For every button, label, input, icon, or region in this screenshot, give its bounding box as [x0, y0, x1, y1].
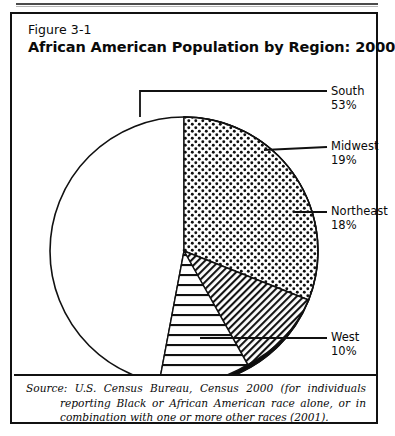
source-note-label: Source:	[26, 382, 67, 394]
callout-south: South 53%	[331, 85, 364, 112]
callout-west: West 10%	[331, 331, 359, 358]
page-top-rule	[16, 3, 378, 5]
page-top-rule-secondary	[16, 6, 378, 7]
callout-west-label: West	[331, 331, 359, 345]
source-divider	[14, 374, 378, 376]
source-note-body: Source: U.S. Census Bureau, Census 2000 …	[26, 381, 366, 425]
pie-chart	[12, 14, 376, 374]
pie-chart-svg	[12, 14, 376, 374]
callout-midwest-label: Midwest	[331, 140, 378, 154]
callout-west-value: 10%	[331, 345, 359, 359]
source-note-text: U.S. Census Bureau, Census 2000 (for ind…	[60, 382, 366, 423]
callout-midwest: Midwest 19%	[331, 140, 378, 167]
figure-box: Figure 3-1 African American Population b…	[10, 12, 378, 424]
callout-northeast-value: 18%	[331, 219, 388, 233]
callout-south-label: South	[331, 85, 364, 99]
callout-northeast-label: Northeast	[331, 205, 388, 219]
callout-northeast: Northeast 18%	[331, 205, 388, 232]
callout-south-value: 53%	[331, 99, 364, 113]
leader-line-midwest	[264, 147, 327, 150]
leader-line-south	[140, 91, 327, 117]
callout-midwest-value: 19%	[331, 154, 378, 168]
source-note: Source: U.S. Census Bureau, Census 2000 …	[26, 381, 366, 425]
